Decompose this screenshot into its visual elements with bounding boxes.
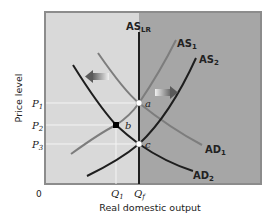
plot-right-region [139, 12, 261, 184]
point-c-label: c [145, 139, 151, 150]
x-tick-qf: Qf [134, 188, 146, 201]
x-tick-q1: Q1 [111, 188, 124, 201]
plot-left-region [45, 12, 139, 184]
y-tick-p1: P1 [31, 98, 43, 111]
point-a-marker [136, 100, 142, 106]
x-axis-title: Real domestic output [99, 202, 201, 213]
as-ad-diagram: a b c ASLR AS1 AS2 AD1 AD2 P1 P2 P3 Q1 Q… [0, 0, 271, 220]
point-c-marker [136, 141, 142, 147]
point-a-label: a [145, 98, 151, 109]
y-axis-title: Price level [13, 74, 24, 123]
point-b-label: b [125, 120, 131, 131]
y-tick-p3: P3 [31, 139, 44, 152]
y-tick-p2: P2 [31, 120, 44, 133]
origin-label: 0 [36, 189, 42, 199]
point-b-marker [113, 122, 119, 128]
